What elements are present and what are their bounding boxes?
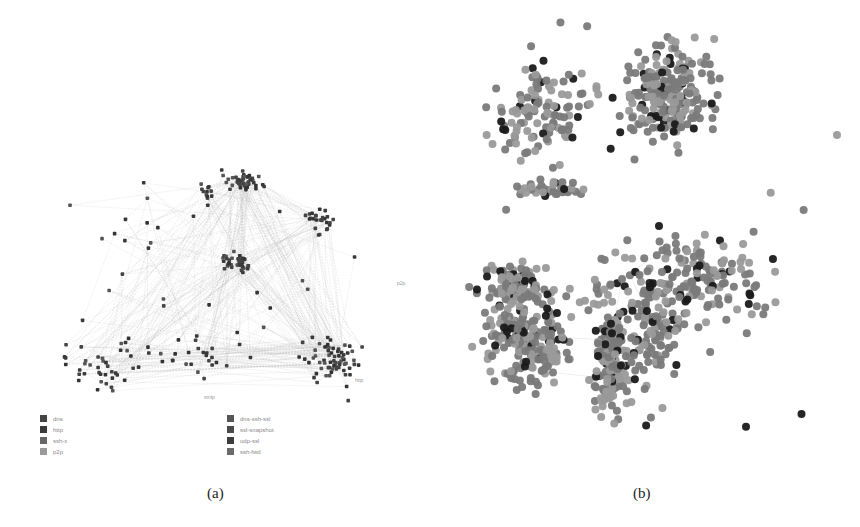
graph-node xyxy=(693,240,701,248)
graph-node xyxy=(324,374,328,378)
graph-node xyxy=(507,300,515,308)
graph-node xyxy=(630,351,638,359)
graph-node xyxy=(521,149,529,157)
graph-node xyxy=(123,239,127,243)
graph-node xyxy=(123,378,127,382)
graph-node xyxy=(646,283,654,291)
graph-node xyxy=(647,413,655,421)
graph-b-canvas xyxy=(440,0,860,470)
graph-node xyxy=(344,373,348,377)
graph-node xyxy=(581,297,589,305)
edge xyxy=(222,170,243,177)
graph-node xyxy=(491,341,499,349)
graph-node xyxy=(547,86,555,94)
graph-node xyxy=(520,308,528,316)
graph-node xyxy=(767,189,775,197)
graph-node xyxy=(201,351,205,355)
legend-label: http xyxy=(53,427,63,433)
graph-node xyxy=(196,370,200,374)
graph-node xyxy=(247,264,251,268)
graph-node xyxy=(323,361,327,365)
graph-node xyxy=(748,310,756,318)
graph-node xyxy=(574,113,582,121)
graph-node xyxy=(553,357,561,365)
graph-node xyxy=(110,386,114,390)
graph-node xyxy=(514,325,522,333)
graph-node xyxy=(610,420,618,428)
graph-node xyxy=(593,367,601,375)
graph-node xyxy=(527,42,535,50)
graph-node xyxy=(549,368,557,376)
edge xyxy=(113,376,326,391)
graph-node xyxy=(594,352,602,360)
graph-node xyxy=(540,366,548,374)
graph-node xyxy=(498,108,506,116)
graph-node xyxy=(189,362,193,366)
graph-node xyxy=(235,331,239,335)
legend-swatch xyxy=(40,415,47,422)
graph-node xyxy=(688,278,696,286)
nodes xyxy=(465,18,841,430)
graph-node xyxy=(671,98,679,106)
graph-node xyxy=(833,131,841,139)
graph-node xyxy=(522,358,530,366)
graph-node xyxy=(161,360,165,364)
graph-node xyxy=(675,293,683,301)
graph-node xyxy=(553,309,561,317)
graph-node xyxy=(693,269,701,277)
legend-label: udp-ssl xyxy=(240,438,259,444)
graph-node xyxy=(597,394,605,402)
graph-node xyxy=(113,232,117,236)
graph-node xyxy=(724,296,732,304)
graph-node xyxy=(489,140,497,148)
graph-node xyxy=(708,286,716,294)
graph-node xyxy=(631,155,639,163)
graph-node xyxy=(560,185,568,193)
graph-node xyxy=(348,366,352,370)
legend-label: ssh-fwd xyxy=(240,449,261,455)
legend-item: udp-ssl xyxy=(227,435,274,446)
graph-node xyxy=(530,324,538,332)
graph-node xyxy=(224,181,228,185)
edge xyxy=(66,353,189,358)
graph-node xyxy=(539,57,547,65)
graph-node xyxy=(655,222,663,230)
legend-label: ssl-snapshot xyxy=(240,427,274,433)
graph-node xyxy=(326,349,330,353)
graph-node xyxy=(238,263,242,267)
graph-node xyxy=(346,399,350,403)
edge xyxy=(98,256,240,390)
graph-node xyxy=(617,362,625,370)
graph-node xyxy=(156,226,160,230)
graph-node xyxy=(83,372,87,376)
legend-swatch xyxy=(227,426,234,433)
graph-node xyxy=(547,297,555,305)
graph-node xyxy=(507,367,515,375)
graph-node xyxy=(560,78,568,86)
graph-node xyxy=(278,210,282,214)
graph-node xyxy=(81,319,85,323)
graph-node xyxy=(753,302,761,310)
graph-node xyxy=(231,176,235,180)
legend-item: ssl-snapshot xyxy=(227,424,274,435)
graph-node xyxy=(609,94,617,102)
graph-node xyxy=(722,316,730,324)
graph-node xyxy=(668,273,676,281)
graph-node xyxy=(700,99,708,107)
edge xyxy=(131,356,299,357)
graph-node xyxy=(660,92,668,100)
graph-node xyxy=(513,123,521,131)
graph-a-canvas: p2phttpsmtp xyxy=(0,0,440,470)
graph-node xyxy=(131,366,135,370)
graph-node xyxy=(742,279,750,287)
graph-node xyxy=(637,278,645,286)
graph-node xyxy=(662,297,670,305)
graph-node xyxy=(629,307,637,315)
graph-node xyxy=(643,307,651,315)
graph-node xyxy=(671,327,679,335)
graph-node xyxy=(550,286,558,294)
graph-node xyxy=(77,379,81,383)
graph-node xyxy=(569,179,577,187)
graph-node xyxy=(591,406,599,414)
graph-node xyxy=(568,133,576,141)
